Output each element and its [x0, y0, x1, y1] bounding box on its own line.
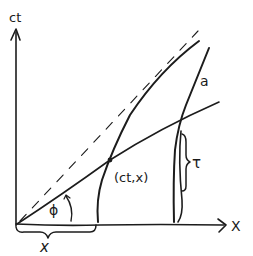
- tau-brace: [182, 134, 190, 191]
- phi-arc: [66, 196, 72, 221]
- phi-label: ϕ: [49, 202, 58, 218]
- x-distance-label: x: [39, 238, 49, 256]
- hyperbolic-worldline-inner: [178, 131, 182, 222]
- spacetime-diagram: ct X a (ct,x) ϕ x τ: [0, 0, 253, 256]
- light-cone-dashed-line: [20, 31, 198, 221]
- x-axis-label: X: [231, 218, 241, 234]
- ct-axis-label: ct: [9, 10, 21, 25]
- ct-axis: [11, 29, 20, 226]
- worldline-label: a: [200, 73, 209, 89]
- x-distance-brace: [16, 225, 96, 238]
- second-worldline: [98, 41, 200, 222]
- tau-label: τ: [192, 154, 201, 172]
- x-axis: [16, 219, 226, 232]
- event-point: [108, 158, 113, 163]
- event-label: (ct,x): [114, 170, 148, 185]
